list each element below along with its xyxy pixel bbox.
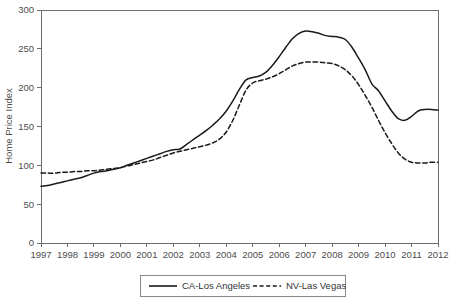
x-tick-label: 2011 (401, 249, 421, 260)
x-tick-label: 2012 (427, 249, 448, 260)
series-line-nv-las-vegas (41, 62, 438, 173)
legend-label-ca-los-angeles: CA-Los Angeles (182, 280, 250, 291)
home-price-index-chart: Home Price Index 050100150200250300 1997… (0, 0, 455, 301)
x-tick-label: 2000 (110, 249, 131, 260)
y-tick-label: 100 (18, 160, 34, 171)
x-tick-label: 2010 (374, 249, 395, 260)
y-tick-label: 250 (18, 43, 34, 54)
x-tick-label: 2002 (163, 249, 184, 260)
x-tick-label: 2009 (348, 249, 369, 260)
x-tick-label: 2004 (216, 249, 237, 260)
y-tick-label: 50 (23, 199, 34, 210)
y-tick-label: 200 (18, 82, 34, 93)
x-tick-label: 2001 (136, 249, 157, 260)
legend: CA-Los Angeles NV-Las Vegas (141, 276, 347, 297)
series-line-ca-los-angeles (41, 31, 438, 186)
x-tick-label: 1999 (83, 249, 104, 260)
y-tick-label: 0 (29, 237, 34, 248)
plot-frame (41, 10, 438, 243)
y-tick-label: 150 (18, 121, 34, 132)
x-tick-label: 2006 (269, 249, 290, 260)
chart-canvas: Home Price Index 050100150200250300 1997… (0, 0, 455, 301)
x-axis-ticks: 1997199819992000200120022003200420052006… (30, 243, 448, 260)
x-tick-label: 2003 (189, 249, 210, 260)
x-tick-label: 2005 (242, 249, 263, 260)
x-tick-label: 2008 (322, 249, 343, 260)
y-tick-label: 300 (18, 4, 34, 15)
x-tick-label: 1998 (57, 249, 78, 260)
y-axis-title: Home Price Index (3, 88, 14, 164)
x-tick-label: 1997 (30, 249, 51, 260)
legend-label-nv-las-vegas: NV-Las Vegas (286, 280, 346, 291)
data-series-group (41, 31, 438, 186)
y-axis-title-group: Home Price Index (3, 88, 14, 164)
y-axis-ticks: 050100150200250300 (18, 4, 41, 248)
x-tick-label: 2007 (295, 249, 316, 260)
